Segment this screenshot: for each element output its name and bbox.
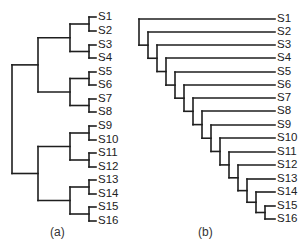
dendrogram-figure: S1S2S3S4S5S6S7S8S9S10S11S12S13S14S15S16(… [0, 0, 303, 242]
panel-b-caterpillar-tree: S1S2S3S4S5S6S7S8S9S10S11S12S13S14S15S16(… [139, 12, 298, 239]
leaf-label: S3 [98, 38, 112, 50]
leaf-label: S15 [277, 199, 297, 211]
leaf-label: S14 [277, 185, 298, 197]
leaf-label: S12 [98, 160, 118, 172]
panel-a-balanced-tree: S1S2S3S4S5S6S7S8S9S10S11S12S13S14S15S16(… [12, 10, 119, 239]
leaf-label: S4 [98, 51, 113, 63]
leaf-label: S14 [98, 187, 119, 199]
leaf-label: S9 [98, 119, 112, 131]
leaf-label: S13 [277, 172, 297, 184]
leaf-label: S12 [277, 158, 297, 170]
leaf-label: S11 [277, 145, 297, 157]
leaf-label: S16 [98, 214, 118, 226]
leaf-label: S16 [277, 212, 297, 224]
leaf-label: S7 [277, 91, 291, 103]
leaf-label: S2 [277, 25, 291, 37]
leaf-label: S10 [277, 131, 297, 143]
panel-caption-b: (b) [198, 225, 213, 239]
leaf-label: S9 [277, 118, 291, 130]
leaf-label: S13 [98, 173, 118, 185]
leaf-label: S1 [277, 12, 291, 24]
leaf-label: S4 [277, 51, 292, 63]
leaf-label: S3 [277, 38, 291, 50]
leaf-label: S7 [98, 92, 112, 104]
leaf-label: S6 [277, 78, 291, 90]
panel-caption-a: (a) [50, 225, 65, 239]
leaf-label: S6 [98, 78, 112, 90]
leaf-label: S5 [98, 65, 112, 77]
leaf-label: S15 [98, 200, 118, 212]
leaf-label: S1 [98, 10, 112, 22]
leaf-label: S2 [98, 24, 112, 36]
leaf-label: S11 [98, 146, 118, 158]
tree-diagrams: S1S2S3S4S5S6S7S8S9S10S11S12S13S14S15S16(… [0, 0, 303, 242]
leaf-label: S8 [98, 105, 112, 117]
leaf-label: S10 [98, 133, 118, 145]
leaf-label: S5 [277, 65, 291, 77]
leaf-label: S8 [277, 104, 291, 116]
